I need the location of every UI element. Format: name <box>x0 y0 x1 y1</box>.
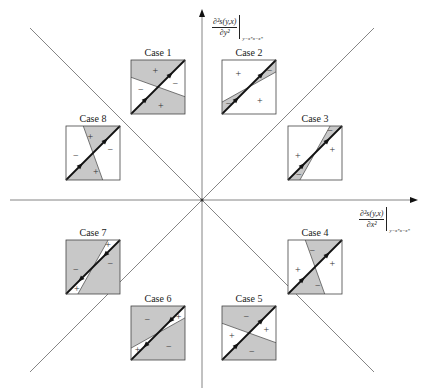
x-axis-fraction: ∂²s(y,x) ∂x² <box>359 210 384 229</box>
case-8: −+−+Case 8 <box>66 113 120 180</box>
sign-label: − <box>315 280 321 291</box>
sign-label: + <box>229 330 235 341</box>
sign-label: − <box>166 341 172 352</box>
sign-label: − <box>73 150 79 161</box>
case-label: Case 2 <box>236 47 263 58</box>
y-axis-eval-subscript: y=x*x=x* <box>242 36 263 41</box>
y-axis-eval-bar: y=x*x=x* <box>239 15 240 39</box>
case-label: Case 7 <box>80 227 107 238</box>
sign-label: + <box>152 65 158 76</box>
case-1: +−−+Case 1 <box>131 47 185 114</box>
sign-label: + <box>257 95 263 106</box>
sign-label: − <box>249 346 255 357</box>
sign-label: − <box>172 78 178 89</box>
sign-label: − <box>138 84 144 95</box>
sign-label: + <box>235 68 241 79</box>
sign-label: + <box>263 324 269 335</box>
sign-label: + <box>105 239 111 250</box>
sign-label: + <box>329 144 335 155</box>
y-axis-denominator: ∂y² <box>220 28 230 37</box>
case-3: ++−−Case 3 <box>288 113 342 180</box>
case-label: Case 1 <box>145 47 172 58</box>
sign-label: − <box>296 169 302 180</box>
sign-label: + <box>295 264 301 275</box>
y-axis-fraction: ∂²s(y,x) ∂y² <box>212 18 237 37</box>
sign-label: + <box>74 283 80 294</box>
sign-label: − <box>327 125 333 136</box>
sign-label: − <box>243 311 249 322</box>
sign-label: + <box>329 258 335 269</box>
case-7: −−++Case 7 <box>66 227 120 294</box>
x-axis-arrow-icon <box>410 197 418 203</box>
x-axis-numerator: ∂²s(y,x) <box>359 210 384 220</box>
y-axis-arrow-icon <box>199 9 205 17</box>
case-label: Case 5 <box>236 293 263 304</box>
origin-point <box>201 199 204 202</box>
sign-label: − <box>226 98 232 109</box>
sign-label: + <box>93 166 99 177</box>
x-axis-label: ∂²s(y,x) ∂x² y=x*x=x* <box>359 207 387 231</box>
sign-label: + <box>295 150 301 161</box>
case-6: −++−Case 6 <box>131 293 185 360</box>
sign-label: + <box>87 131 93 142</box>
sign-label: − <box>73 264 79 275</box>
case-label: Case 4 <box>302 227 329 238</box>
quadrant-diagram: +−−+Case 1+−−+Case 2++−−Case 3+−+−Case 4… <box>0 0 439 391</box>
sign-label: + <box>135 344 141 355</box>
sign-label: + <box>176 311 182 322</box>
sign-label: + <box>158 100 164 111</box>
case-label: Case 3 <box>302 113 329 124</box>
case-label: Case 6 <box>145 293 172 304</box>
sign-label: − <box>107 144 113 155</box>
sign-label: − <box>309 245 315 256</box>
case-4: +−+−Case 4 <box>288 227 342 294</box>
sign-label: − <box>144 314 150 325</box>
x-axis-denominator: ∂x² <box>367 220 377 229</box>
x-axis-eval-subscript: y=x*x=x* <box>389 228 410 233</box>
x-axis-eval-bar: y=x*x=x* <box>386 207 387 231</box>
axes <box>10 9 418 388</box>
sign-label: − <box>267 65 273 76</box>
y-axis-label: ∂²s(y,x) ∂y² y=x*x=x* <box>212 15 240 39</box>
case-2: +−−+Case 2 <box>222 47 276 114</box>
case-5: −++−Case 5 <box>222 293 276 360</box>
sign-label: − <box>107 258 113 269</box>
case-label: Case 8 <box>80 113 107 124</box>
y-axis-numerator: ∂²s(y,x) <box>212 18 237 28</box>
